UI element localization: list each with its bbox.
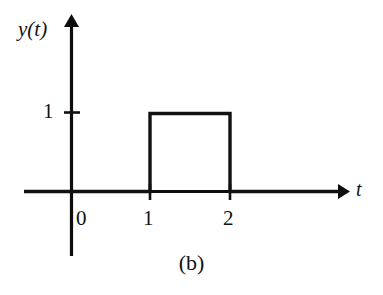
- figure-container: y(t) t 1 0 1 2 (b): [0, 0, 383, 295]
- y-axis-arrow-icon: [64, 14, 79, 27]
- figure-caption: (b): [0, 252, 383, 274]
- y-axis-label: y(t): [18, 19, 47, 40]
- x-tick-label-2: 2: [223, 208, 234, 229]
- x-tick-label-0: 0: [76, 208, 87, 229]
- x-tick-label-1: 1: [143, 208, 154, 229]
- y-tick-label-1: 1: [43, 101, 54, 122]
- x-axis-label: t: [356, 179, 362, 199]
- y-axis-label-text: y(t): [18, 17, 47, 41]
